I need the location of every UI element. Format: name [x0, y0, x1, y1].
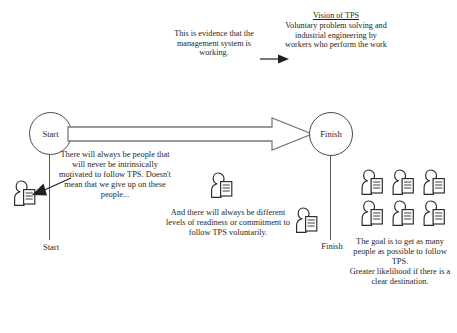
block-arrow-icon	[66, 116, 314, 152]
evidence-note-text: This is evidence that the management sys…	[168, 29, 260, 58]
person-with-document-icon	[389, 198, 418, 228]
right-caption-text: The goal is to get as many people as pos…	[346, 237, 454, 287]
tps-vision-diagram: This is evidence that the management sys…	[0, 0, 457, 333]
start-node-label: Start	[42, 129, 58, 139]
person-with-document-icon	[389, 167, 418, 197]
vision-of-tps-title: Vision of TPS	[288, 11, 384, 21]
left-caption-text: There will always be people that will ne…	[57, 150, 173, 200]
person-with-document-icon	[358, 167, 387, 197]
vision-of-tps-body: Voluntary problem solving and industrial…	[285, 21, 387, 50]
start-axis-label: Start	[29, 242, 73, 252]
person-with-document-icon	[358, 198, 387, 228]
person-with-document-icon	[420, 167, 449, 197]
person-with-document-icon	[209, 170, 235, 200]
arrow-right-icon	[260, 52, 290, 66]
goal-people-group	[358, 167, 452, 229]
middle-caption-text: And there will always be different level…	[166, 208, 290, 238]
person-with-document-icon	[294, 205, 320, 235]
finish-node-circle: Finish	[309, 112, 353, 156]
finish-node-label: Finish	[320, 129, 342, 139]
person-with-document-icon	[420, 198, 449, 228]
finish-guide-line	[330, 155, 331, 240]
